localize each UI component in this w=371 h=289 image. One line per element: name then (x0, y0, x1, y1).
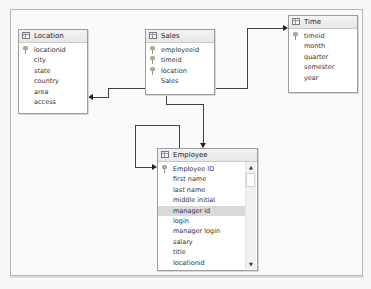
column-name: locationid (173, 259, 205, 267)
rel-employee-self-seg4[interactable] (135, 167, 153, 168)
column-name: state (34, 67, 50, 75)
rel-employee-self-seg3[interactable] (135, 125, 136, 168)
column-name: location (161, 67, 187, 75)
column-name: login (173, 217, 189, 225)
table-header[interactable]: Location (19, 30, 87, 43)
column-row[interactable]: semester (289, 62, 357, 72)
table-title: Time (304, 18, 321, 26)
column-name: manager login (173, 227, 220, 235)
primary-key-icon (150, 67, 155, 75)
column-name: manager id (173, 207, 210, 215)
column-name: area (34, 88, 49, 96)
table-header[interactable]: Employee (158, 149, 257, 162)
arrow-to-location-icon (88, 94, 93, 100)
column-row[interactable]: area (19, 87, 87, 97)
column-row[interactable]: salary (158, 237, 246, 247)
column-name: middle initial (173, 196, 215, 204)
column-row[interactable]: access (19, 97, 87, 107)
table-icon (149, 32, 157, 39)
column-row[interactable]: timeid (289, 31, 357, 41)
primary-key-icon (162, 165, 167, 173)
rel-sales-employee-seg3[interactable] (203, 104, 204, 144)
column-row[interactable]: locationid (158, 258, 246, 268)
column-name: title (173, 248, 186, 256)
rel-sales-location-seg3[interactable] (92, 97, 109, 98)
rel-employee-self-seg2[interactable] (135, 125, 180, 126)
rel-employee-self-seg1[interactable] (179, 125, 180, 148)
scroll-thumb[interactable] (246, 173, 255, 187)
column-row[interactable]: employeeid (146, 45, 214, 55)
primary-key-icon (150, 46, 155, 54)
table-icon (292, 18, 300, 25)
table-header[interactable]: Time (289, 16, 357, 29)
primary-key-icon (150, 56, 155, 64)
vertical-scrollbar[interactable]: ▲ ▼ (245, 162, 256, 269)
canvas-bottom-edge (10, 276, 364, 278)
column-row[interactable]: timeid (146, 55, 214, 65)
column-row[interactable]: Sales (146, 76, 214, 86)
column-name: Sales (161, 77, 178, 85)
column-name: employeeid (161, 46, 199, 54)
column-row[interactable]: login (158, 216, 246, 226)
column-row[interactable]: Employee ID (158, 164, 246, 174)
column-row[interactable]: title (158, 247, 246, 257)
column-row[interactable]: month (289, 41, 357, 51)
table-title: Location (34, 32, 64, 40)
table-icon (22, 32, 30, 39)
column-row[interactable]: country (19, 76, 87, 86)
table-employee[interactable]: Employee Employee ID first name last nam… (157, 148, 258, 271)
table-sales[interactable]: Sales employeeid timeid location Sales (145, 29, 215, 95)
column-row[interactable]: quarter (289, 52, 357, 62)
column-row[interactable]: year (289, 73, 357, 83)
column-name: month (304, 42, 325, 50)
column-row[interactable]: state (19, 66, 87, 76)
column-name: city (34, 56, 46, 64)
column-row[interactable]: manager login (158, 226, 246, 236)
table-title: Employee (173, 151, 208, 159)
column-name: Employee ID (173, 165, 214, 173)
column-name: access (34, 98, 56, 106)
primary-key-icon (293, 32, 298, 40)
column-name: timeid (161, 56, 182, 64)
rel-sales-time-seg3[interactable] (247, 28, 284, 29)
table-header[interactable]: Sales (146, 30, 214, 43)
column-name: semester (304, 63, 334, 71)
scroll-up-icon[interactable]: ▲ (246, 162, 256, 172)
column-name: first name (173, 175, 206, 183)
table-time[interactable]: Time timeid month quarter semester year (288, 15, 358, 93)
table-title: Sales (161, 32, 180, 40)
rel-sales-employee-seg2[interactable] (166, 104, 204, 105)
rel-sales-location-seg1[interactable] (108, 88, 145, 89)
table-location[interactable]: Location locationid city state country a… (18, 29, 88, 114)
table-icon (161, 151, 169, 158)
column-name: quarter (304, 53, 328, 61)
column-row[interactable]: city (19, 55, 87, 65)
column-name: timeid (304, 32, 325, 40)
column-name: locationid (34, 46, 66, 54)
rel-sales-time-seg1[interactable] (214, 88, 248, 89)
column-row[interactable]: middle initial (158, 195, 246, 205)
column-row[interactable]: first name (158, 174, 246, 184)
column-name: salary (173, 238, 193, 246)
column-row[interactable]: location (146, 66, 214, 76)
column-row[interactable]: last name (158, 185, 246, 195)
column-name: last name (173, 186, 205, 194)
column-name: year (304, 74, 319, 82)
column-name: country (34, 77, 59, 85)
scroll-down-icon[interactable]: ▼ (246, 259, 256, 269)
rel-sales-time-seg2[interactable] (247, 28, 248, 89)
primary-key-icon (23, 46, 28, 54)
column-row-selected[interactable]: manager id (158, 206, 246, 216)
column-row[interactable]: locationid (19, 45, 87, 55)
